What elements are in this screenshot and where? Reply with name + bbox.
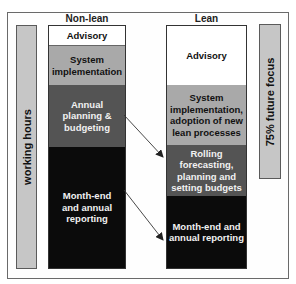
non-lean-annual-planning: Annual planning & budgeting xyxy=(49,85,125,147)
lean-title: Lean xyxy=(166,13,247,24)
lean-system-implementation: System implementation, adoption of new l… xyxy=(167,85,246,145)
non-lean-column: Advisory System implementation Annual pl… xyxy=(48,25,126,269)
future-focus-bar: 75% future focus xyxy=(259,24,281,179)
non-lean-title: Non-lean xyxy=(48,13,126,24)
working-hours-label: working hours xyxy=(21,109,33,185)
non-lean-advisory: Advisory xyxy=(49,26,125,46)
lean-rolling-forecasting: Rolling forecasting, planning and settin… xyxy=(167,145,246,196)
lean-column: Advisory System implementation, adoption… xyxy=(166,25,247,269)
lean-month-end-reporting: Month-end and annual reporting xyxy=(167,196,246,268)
working-hours-bar: working hours xyxy=(16,25,37,269)
non-lean-month-end-reporting: Month-end and annual reporting xyxy=(49,147,125,268)
future-focus-label: 75% future focus xyxy=(264,57,276,146)
lean-advisory: Advisory xyxy=(167,26,246,85)
non-lean-system-implementation: System implementation xyxy=(49,46,125,85)
